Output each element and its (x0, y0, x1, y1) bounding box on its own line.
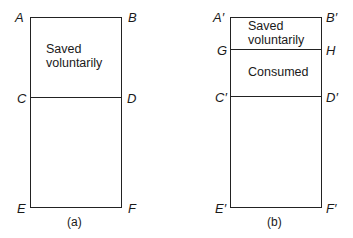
line-c-prime-d-prime (230, 96, 322, 97)
saved-voluntarily-text-b: Saved voluntarily (248, 19, 304, 47)
label-c: C (17, 92, 26, 105)
label-a: A (15, 11, 24, 24)
caption-b: (b) (267, 216, 282, 229)
consumed-text: Consumed (248, 65, 308, 79)
saved-voluntarily-text-a: Saved voluntarily (46, 42, 102, 70)
label-b-prime: B′ (326, 11, 337, 24)
label-c-prime: C′ (215, 91, 227, 104)
label-e: E (17, 202, 26, 215)
label-g: G (217, 44, 227, 57)
label-f-prime: F′ (326, 202, 336, 215)
caption-a: (a) (67, 216, 82, 229)
label-b: B (128, 11, 137, 24)
label-f: F (128, 202, 136, 215)
line-g-h (230, 49, 322, 50)
label-h: H (326, 44, 335, 57)
label-e-prime: E′ (215, 202, 226, 215)
line-c-d (30, 97, 122, 98)
label-d-prime: D′ (326, 91, 338, 104)
label-d: D (127, 92, 136, 105)
label-a-prime: A′ (213, 11, 224, 24)
